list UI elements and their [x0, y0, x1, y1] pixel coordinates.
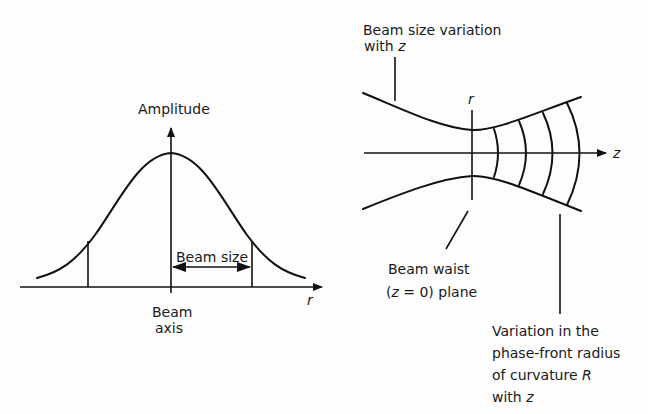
curvature-label-4: with z — [492, 389, 534, 405]
r-axis-label-right: r — [468, 91, 475, 107]
curvature-label-3: of curvature R — [492, 367, 592, 383]
beam-axis-label-1: Beam — [152, 304, 192, 320]
amplitude-label: Amplitude — [138, 101, 210, 117]
beam-waist-leader — [446, 211, 468, 249]
beam-propagation-panel: r z Beam size variation with z Beam wais… — [363, 22, 621, 405]
curvature-label-1: Variation in the — [492, 323, 599, 339]
curvature-label-2: phase-front radius — [492, 345, 620, 361]
r-axis-label: r — [307, 292, 314, 308]
z-axis-label: z — [612, 145, 621, 161]
beam-waist-label-1: Beam waist — [388, 261, 470, 277]
beam-size-variation-label-2: with z — [364, 38, 406, 54]
beam-size-label: Beam size — [176, 249, 248, 265]
phase-front-4 — [567, 103, 580, 205]
amplitude-profile-panel: Amplitude Beam size r Beam axis — [20, 101, 322, 336]
gaussian-beam-diagram: Amplitude Beam size r Beam axis — [0, 0, 648, 414]
diagram-svg: Amplitude Beam size r Beam axis — [0, 0, 648, 414]
beam-waist-label-2: (z = 0) plane — [386, 284, 477, 300]
beam-size-variation-label-1: Beam size variation — [363, 22, 501, 38]
beam-axis-label-2: axis — [155, 320, 183, 336]
